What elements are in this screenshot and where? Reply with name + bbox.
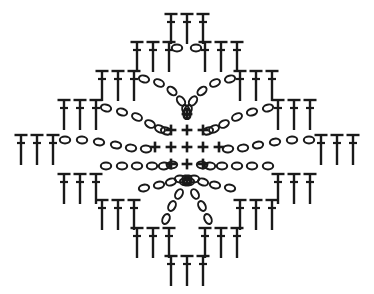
crochet-diagram [0, 0, 374, 294]
crochet-diagram-canvas [0, 0, 374, 294]
